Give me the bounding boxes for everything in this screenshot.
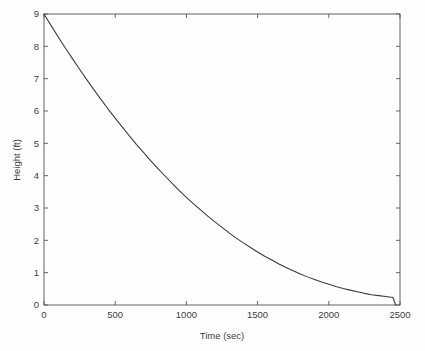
y-tick-label-6: 6 bbox=[34, 105, 39, 116]
x-axis-tick-labels: 05001000150020002500 bbox=[41, 309, 410, 320]
x-axis-title: Time (sec) bbox=[200, 330, 245, 341]
y-axis-tick-labels: 0123456789 bbox=[34, 8, 39, 310]
x-tick-label-5: 2500 bbox=[389, 309, 410, 320]
y-tick-label-3: 3 bbox=[34, 202, 39, 213]
y-tick-label-5: 5 bbox=[34, 138, 39, 149]
y-tick-label-0: 0 bbox=[34, 299, 39, 310]
y-tick-label-4: 4 bbox=[34, 170, 39, 181]
chart-plot: 05001000150020002500 0123456789 Time (se… bbox=[0, 0, 425, 351]
x-tick-label-1: 500 bbox=[107, 309, 123, 320]
y-axis-title: Height (ft) bbox=[11, 139, 22, 181]
figure-canvas: 05001000150020002500 0123456789 Time (se… bbox=[0, 0, 425, 351]
data-curve-height bbox=[44, 14, 396, 305]
x-tick-label-4: 2000 bbox=[318, 309, 339, 320]
y-tick-label-9: 9 bbox=[34, 8, 39, 19]
axes-box bbox=[44, 14, 400, 305]
y-tick-label-1: 1 bbox=[34, 267, 39, 278]
y-tick-label-8: 8 bbox=[34, 41, 39, 52]
y-tick-label-2: 2 bbox=[34, 235, 39, 246]
y-axis-ticks bbox=[44, 14, 400, 305]
y-tick-label-7: 7 bbox=[34, 73, 39, 84]
x-tick-label-2: 1000 bbox=[176, 309, 197, 320]
x-tick-label-3: 1500 bbox=[247, 309, 268, 320]
x-axis-ticks bbox=[44, 14, 400, 305]
x-tick-label-0: 0 bbox=[41, 309, 46, 320]
